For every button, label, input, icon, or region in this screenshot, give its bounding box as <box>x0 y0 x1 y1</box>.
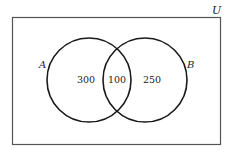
venn-diagram: U A B 300 100 250 <box>0 0 235 157</box>
set-a-label: A <box>38 59 46 70</box>
set-a-only-value: 300 <box>77 74 95 85</box>
intersection-value: 100 <box>108 74 126 85</box>
set-b-only-value: 250 <box>143 74 161 85</box>
universe-label: U <box>212 4 222 17</box>
set-b-label: B <box>186 59 194 70</box>
